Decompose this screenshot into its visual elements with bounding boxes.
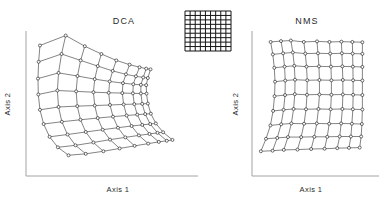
data-point-node	[76, 105, 79, 108]
mesh-dca	[38, 36, 172, 156]
data-point-node	[146, 102, 149, 105]
data-point-node	[138, 66, 141, 69]
data-point-node	[136, 113, 139, 116]
data-point-node	[313, 135, 316, 138]
data-point-node	[273, 66, 276, 69]
data-point-node	[318, 79, 321, 82]
data-point-node	[289, 39, 292, 42]
data-point-node	[102, 150, 105, 153]
data-point-node	[145, 67, 148, 70]
data-point-node	[116, 126, 119, 129]
data-point-node	[124, 136, 127, 139]
reference-grid-legend	[184, 10, 232, 52]
mesh-column-line	[38, 45, 69, 155]
data-point-node	[271, 53, 274, 56]
data-point-node	[326, 135, 329, 138]
data-point-node	[156, 131, 159, 134]
data-point-node	[294, 78, 297, 81]
data-point-node	[361, 52, 364, 55]
data-point-node	[84, 152, 87, 155]
data-point-node	[296, 148, 299, 151]
data-point-node	[323, 147, 326, 150]
data-point-node	[269, 40, 272, 43]
nodes-nms	[259, 39, 364, 153]
data-point-node	[84, 130, 87, 133]
data-point-node	[171, 138, 174, 141]
data-point-node	[317, 107, 320, 110]
data-point-node	[145, 92, 148, 95]
data-point-node	[36, 77, 39, 80]
data-point-node	[283, 65, 286, 68]
data-point-node	[280, 123, 283, 126]
data-point-node	[92, 141, 95, 144]
data-point-node	[48, 135, 51, 138]
mesh-row-line	[39, 54, 148, 78]
data-point-node	[358, 146, 361, 149]
data-point-node	[351, 65, 354, 68]
data-point-node	[139, 83, 142, 86]
data-point-node	[121, 82, 124, 85]
data-point-node	[157, 140, 160, 143]
data-point-node	[130, 125, 133, 128]
data-point-node	[96, 65, 99, 68]
data-point-node	[66, 133, 69, 136]
data-point-node	[340, 52, 343, 55]
xaxis-label-nms: Axis 1	[300, 185, 323, 194]
axis-lines-nms	[252, 31, 379, 176]
data-point-node	[282, 148, 285, 151]
mesh-column-line	[133, 67, 159, 142]
data-point-node	[60, 120, 63, 123]
data-point-node	[57, 71, 60, 74]
data-point-node	[352, 79, 355, 82]
data-point-node	[293, 64, 296, 67]
data-point-node	[340, 40, 343, 43]
data-point-node	[276, 136, 279, 139]
yaxis-label-dca: Axis 2	[3, 93, 12, 116]
data-point-node	[79, 118, 82, 121]
data-point-node	[133, 144, 136, 147]
data-point-node	[109, 138, 112, 141]
data-point-node	[108, 80, 111, 83]
data-point-node	[115, 59, 118, 62]
data-point-node	[341, 107, 344, 110]
data-point-node	[134, 75, 137, 78]
data-point-node	[291, 51, 294, 54]
data-point-node	[122, 103, 125, 106]
data-point-node	[360, 135, 363, 138]
data-point-node	[330, 93, 333, 96]
mesh-row-line	[40, 36, 151, 70]
data-point-node	[124, 73, 127, 76]
data-point-node	[350, 122, 353, 125]
data-point-node	[74, 144, 77, 147]
data-point-node	[341, 65, 344, 68]
xaxis-label-dca: Axis 1	[107, 185, 130, 194]
data-point-node	[128, 63, 131, 66]
data-point-node	[316, 52, 319, 55]
data-point-node	[75, 90, 78, 93]
data-point-node	[56, 146, 59, 149]
mesh-column-line	[93, 54, 119, 148]
data-point-node	[305, 108, 308, 111]
data-point-node	[286, 136, 289, 139]
data-point-node	[284, 79, 287, 82]
data-point-node	[93, 104, 96, 107]
data-point-node	[282, 108, 285, 111]
data-point-node	[141, 123, 144, 126]
data-point-node	[329, 65, 332, 68]
data-point-node	[341, 79, 344, 82]
data-point-node	[149, 68, 152, 71]
data-point-node	[274, 80, 277, 83]
data-point-node	[361, 41, 364, 44]
data-point-node	[306, 79, 309, 82]
data-point-node	[148, 132, 151, 135]
data-point-node	[341, 93, 344, 96]
data-point-node	[121, 92, 124, 95]
data-point-node	[273, 95, 276, 98]
data-point-node	[37, 60, 40, 63]
data-point-node	[92, 91, 95, 94]
mesh-column-line	[141, 69, 167, 141]
mesh-row-line	[38, 73, 146, 85]
data-point-node	[300, 136, 303, 139]
data-point-node	[284, 94, 287, 97]
data-point-node	[280, 40, 283, 43]
